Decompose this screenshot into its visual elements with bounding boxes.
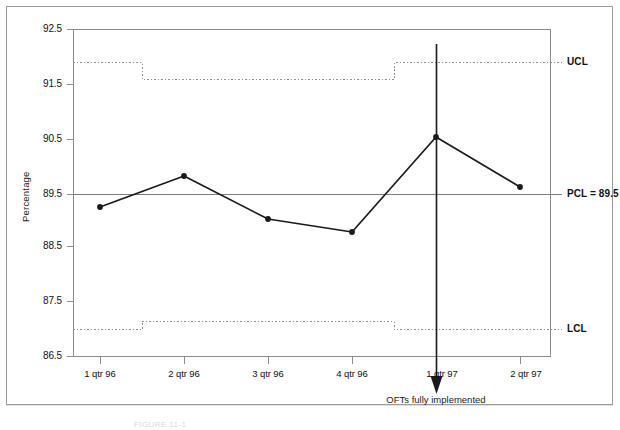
lcl-label: LCL: [567, 324, 587, 334]
lower-control-limit: [73, 322, 562, 330]
y-axis-ticks: [67, 30, 73, 357]
x-tick-label: 3 qtr 96: [238, 369, 298, 379]
x-tick-label: 1 qtr 97: [412, 369, 472, 379]
figure-page: 92.5 91.5 90.5 89.5 88.5 87.5 86.5 Perce…: [0, 0, 620, 430]
y-tick-label: 90.5: [26, 134, 62, 144]
upper-control-limit: [73, 63, 562, 80]
control-chart: [0, 0, 620, 430]
x-axis-ticks: [101, 357, 521, 364]
ucl-label: UCL: [567, 57, 588, 67]
x-tick-label: 4 qtr 96: [322, 369, 382, 379]
y-tick-label: 87.5: [26, 296, 62, 306]
annotation-arrow: [431, 44, 443, 394]
implementation-annotation: OFTs fully implemented: [356, 394, 516, 405]
y-tick-label: 86.5: [26, 351, 62, 361]
x-tick-label: 2 qtr 96: [154, 369, 214, 379]
x-tick-label: 2 qtr 97: [496, 369, 556, 379]
data-series: [97, 134, 523, 235]
y-tick-label: 89.5: [26, 189, 62, 199]
figure-caption: FIGURE 11-1: [134, 420, 186, 429]
y-tick-label: 88.5: [26, 241, 62, 251]
y-axis-title: Percentage: [20, 171, 31, 222]
center-line-label: PCL = 89.5: [567, 189, 619, 199]
plot-axes: [73, 29, 551, 357]
x-tick-label: 1 qtr 96: [70, 369, 130, 379]
y-tick-label: 91.5: [26, 79, 62, 89]
y-tick-label: 92.5: [26, 24, 62, 34]
